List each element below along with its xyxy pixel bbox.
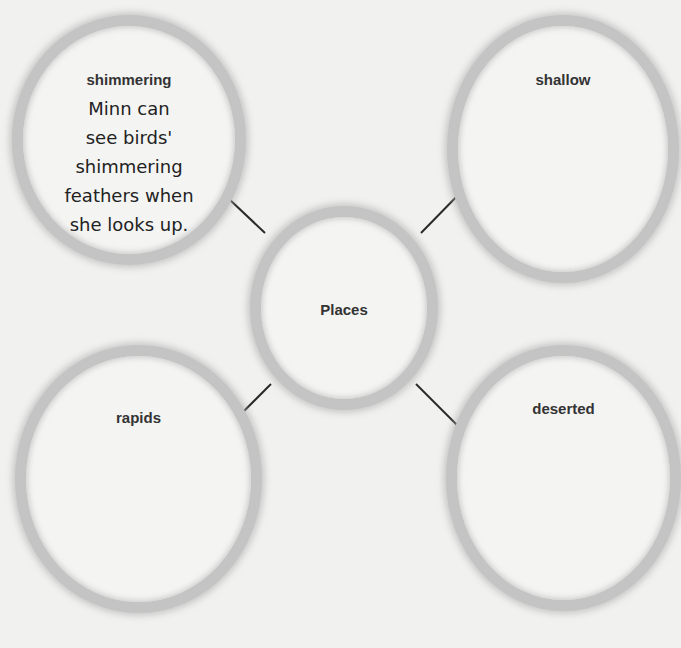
- answer-line: feathers when: [23, 181, 235, 210]
- node-label: shallow: [458, 71, 668, 88]
- node-center: Places: [250, 206, 438, 410]
- center-label: Places: [261, 301, 427, 318]
- word-web: shimmering Minn can see birds' shimmerin…: [0, 0, 681, 648]
- answer-line: shimmering: [23, 152, 235, 181]
- node-top-left: shimmering Minn can see birds' shimmerin…: [12, 15, 246, 265]
- node-bottom-right: deserted: [446, 345, 681, 611]
- answer-line: Minn can: [23, 94, 235, 123]
- node-top-right: shallow: [447, 15, 679, 283]
- written-answer: Minn can see birds' shimmering feathers …: [23, 94, 235, 239]
- node-label: deserted: [457, 400, 670, 417]
- answer-line: she looks up.: [23, 210, 235, 239]
- node-label: shimmering: [23, 71, 235, 88]
- node-bottom-left: rapids: [15, 345, 262, 613]
- answer-line: see birds': [23, 123, 235, 152]
- node-label: rapids: [26, 409, 251, 426]
